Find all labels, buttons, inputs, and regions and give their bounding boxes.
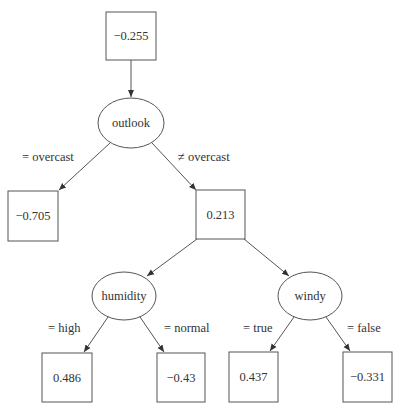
node-high-leaf-label: 0.486 xyxy=(53,371,81,385)
node-root: −0.255 xyxy=(106,12,156,60)
node-outlook-label: outlook xyxy=(112,116,151,130)
edge-label-high: = high xyxy=(48,321,81,335)
node-overcast-leaf: −0.705 xyxy=(8,191,58,241)
edge-label-not-overcast: ≠ overcast xyxy=(178,150,230,164)
edge-windy-true xyxy=(270,317,294,351)
node-windy-label: windy xyxy=(294,289,326,303)
node-mid: 0.213 xyxy=(196,190,245,239)
node-windy: windy xyxy=(278,272,342,320)
edge-label-true: = true xyxy=(243,321,273,335)
node-high-leaf: 0.486 xyxy=(42,353,92,402)
edge-label-normal: = normal xyxy=(164,321,210,335)
node-true-leaf-label: 0.437 xyxy=(239,370,267,384)
node-overcast-leaf-label: −0.705 xyxy=(15,209,50,223)
node-normal-leaf: −0.43 xyxy=(157,353,205,402)
node-mid-label: 0.213 xyxy=(206,208,234,222)
edge-label-false: = false xyxy=(347,321,381,335)
node-humidity-label: humidity xyxy=(101,289,147,303)
node-outlook: outlook xyxy=(98,98,164,148)
edge-label-overcast: = overcast xyxy=(22,150,74,164)
edge-humidity-high xyxy=(84,317,108,352)
edge-humidity-normal xyxy=(140,317,164,352)
node-humidity: humidity xyxy=(92,272,156,320)
decision-tree-diagram: = overcast ≠ overcast = high = normal = … xyxy=(0,0,404,418)
node-normal-leaf-label: −0.43 xyxy=(167,371,196,385)
edge-mid-windy xyxy=(244,239,289,276)
node-root-label: −0.255 xyxy=(113,29,148,43)
node-false-leaf-label: −0.331 xyxy=(350,370,385,384)
node-false-leaf: −0.331 xyxy=(343,352,392,402)
edge-mid-humidity xyxy=(147,239,197,276)
node-true-leaf: 0.437 xyxy=(229,352,278,402)
